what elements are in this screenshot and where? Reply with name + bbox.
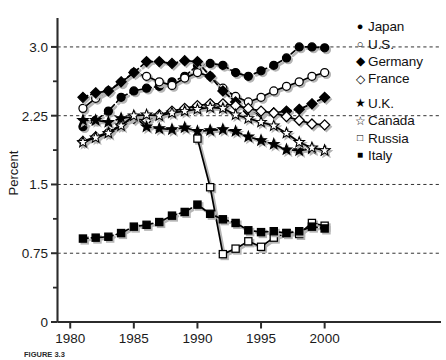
legend-item-us[interactable]: ○U.S. (352, 35, 444, 52)
data-point[interactable] (79, 235, 86, 242)
legend-item-label: Germany (368, 54, 423, 69)
data-point[interactable] (79, 104, 87, 112)
x-tick-label: 1980 (55, 331, 85, 346)
figure-caption: FIGURE 3.3 (24, 350, 444, 360)
y-tick-label: 0.75 (22, 246, 48, 261)
data-point[interactable] (206, 59, 214, 67)
data-point[interactable] (232, 245, 239, 252)
data-point[interactable] (207, 210, 214, 217)
legend-item-russia[interactable]: □Russia (352, 129, 444, 146)
x-tick-label: 1995 (246, 331, 276, 346)
open-diamond-icon: ◇ (352, 73, 368, 85)
legend-item-label: France (368, 71, 409, 86)
series-italy (79, 201, 330, 244)
legend-item-italy[interactable]: ■Italy (352, 147, 444, 164)
filled-star-icon: ★ (352, 97, 368, 109)
data-point[interactable] (194, 201, 201, 208)
data-point[interactable] (257, 243, 264, 250)
data-point[interactable] (143, 84, 151, 92)
figure-container: 00.751.52.253.019801985199019952000Perce… (0, 0, 446, 360)
x-tick-label: 1985 (119, 331, 149, 346)
legend-item-label: Italy (368, 148, 392, 163)
data-point[interactable] (321, 69, 329, 77)
data-point[interactable] (193, 69, 201, 77)
data-point[interactable] (143, 72, 151, 80)
data-point[interactable] (194, 135, 201, 142)
data-point[interactable] (232, 219, 239, 226)
data-point[interactable] (181, 208, 188, 215)
data-point[interactable] (92, 234, 99, 241)
legend-item-label: U.S. (368, 37, 394, 52)
data-point[interactable] (105, 233, 112, 240)
legend-group-separator (352, 88, 444, 95)
data-point[interactable] (245, 227, 252, 234)
series-russia (194, 135, 330, 260)
data-point[interactable] (295, 78, 303, 86)
data-point[interactable] (321, 44, 329, 52)
data-point[interactable] (143, 221, 150, 228)
data-point[interactable] (308, 43, 316, 51)
data-point[interactable] (245, 238, 252, 245)
open-circle-icon: ○ (352, 39, 368, 50)
data-point[interactable] (156, 218, 163, 225)
data-point[interactable] (168, 81, 176, 89)
legend-item-label: Russia (368, 131, 409, 146)
filled-diamond-icon: ◆ (352, 55, 368, 67)
data-point[interactable] (321, 225, 328, 232)
data-point[interactable] (270, 228, 277, 235)
data-point[interactable] (104, 107, 112, 115)
filled-circle-icon: ● (352, 21, 368, 32)
y-tick-label: 2.25 (22, 109, 48, 124)
y-tick-label: 1.5 (29, 177, 48, 192)
data-point[interactable] (308, 72, 316, 80)
data-point[interactable] (181, 74, 189, 82)
data-point[interactable] (257, 229, 264, 236)
y-tick-label: 0 (40, 315, 48, 330)
x-tick-label: 2000 (310, 331, 340, 346)
legend-item-label: U.K. (368, 96, 394, 111)
open-star-icon: ☆ (352, 115, 368, 127)
data-point[interactable] (282, 82, 290, 90)
data-point[interactable] (308, 223, 315, 230)
open-square-icon: □ (352, 133, 368, 143)
x-tick-label: 1990 (182, 331, 212, 346)
data-point[interactable] (155, 78, 163, 86)
data-point[interactable] (118, 229, 125, 236)
legend-item-germany[interactable]: ◆Germany (352, 53, 444, 70)
legend-item-japan[interactable]: ●Japan (352, 18, 444, 35)
filled-square-icon: ■ (352, 150, 368, 160)
series-line-shadow (199, 140, 326, 256)
data-point[interactable] (117, 93, 125, 101)
data-point[interactable] (270, 61, 278, 69)
data-point[interactable] (130, 223, 137, 230)
data-point[interactable] (283, 229, 290, 236)
legend-item-france[interactable]: ◇France (352, 70, 444, 87)
data-point[interactable] (295, 43, 303, 51)
chart-legend: ●Japan○U.S.◆Germany◇France★U.K.☆Canada□R… (352, 18, 444, 164)
data-point[interactable] (219, 61, 227, 69)
legend-item-canada[interactable]: ☆Canada (352, 112, 444, 129)
legend-item-uk[interactable]: ★U.K. (352, 95, 444, 112)
data-point[interactable] (219, 216, 226, 223)
data-point[interactable] (244, 72, 252, 80)
legend-item-label: Canada (368, 113, 415, 128)
y-tick-label: 3.0 (29, 40, 48, 55)
data-point[interactable] (270, 87, 278, 95)
legend-item-label: Japan (368, 19, 404, 34)
data-point[interactable] (232, 69, 240, 77)
data-point[interactable] (257, 93, 265, 101)
data-point[interactable] (282, 54, 290, 62)
data-point[interactable] (219, 251, 226, 258)
data-point[interactable] (296, 228, 303, 235)
data-point[interactable] (168, 212, 175, 219)
y-axis-title: Percent (6, 150, 21, 195)
data-point[interactable] (130, 87, 138, 95)
data-point[interactable] (207, 184, 214, 191)
data-point[interactable] (257, 67, 265, 75)
